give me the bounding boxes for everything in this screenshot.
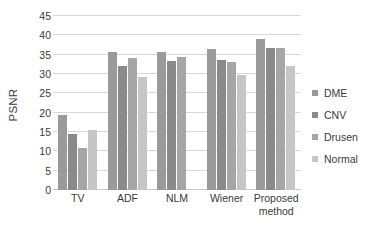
legend: DMECNVDrusenNormal (312, 84, 376, 172)
y-axis-tick-label: 25 (39, 87, 51, 99)
bar (128, 58, 137, 190)
legend-swatch-icon (312, 90, 318, 96)
y-axis-title: PSNR (0, 70, 26, 140)
bar (78, 148, 87, 190)
bar (157, 52, 166, 190)
y-axis-tick-label: 10 (39, 145, 51, 157)
bar (276, 48, 285, 190)
bar (227, 62, 236, 190)
bar (88, 130, 97, 190)
y-axis-tick-label: 45 (39, 10, 51, 22)
bar-group (207, 16, 246, 190)
legend-label: Drusen (324, 131, 358, 143)
y-axis-tick-label: 5 (45, 165, 51, 177)
bar (177, 57, 186, 190)
legend-item[interactable]: DME (312, 84, 376, 102)
bar (138, 77, 147, 190)
legend-item[interactable]: Drusen (312, 128, 376, 146)
x-axis-tick-label-line: method (243, 205, 309, 218)
bar (118, 66, 127, 191)
legend-label: Normal (324, 153, 358, 165)
y-axis-tick-label: 30 (39, 68, 51, 80)
x-axis-tick-labels: TVADFNLMWienerProposedmethod (53, 192, 301, 236)
legend-label: CNV (324, 109, 346, 121)
y-axis-tick-label: 15 (39, 126, 51, 138)
y-axis-tick-label: 40 (39, 29, 51, 41)
bar-group (108, 16, 147, 190)
legend-swatch-icon (312, 112, 318, 118)
legend-swatch-icon (312, 156, 318, 162)
psnr-bar-chart: PSNR 051015202530354045 TVADFNLMWienerPr… (0, 0, 378, 239)
legend-label: DME (324, 87, 347, 99)
bar (237, 75, 246, 190)
bar (286, 66, 295, 191)
legend-item[interactable]: CNV (312, 106, 376, 124)
bar (256, 39, 265, 190)
y-axis-tick-labels: 051015202530354045 (25, 16, 51, 190)
x-axis-tick-label-line: Proposed (243, 192, 309, 205)
y-axis-tick-label: 20 (39, 107, 51, 119)
bar (217, 60, 226, 190)
plot-area (53, 16, 301, 190)
bar-group (157, 16, 186, 190)
bar (68, 134, 77, 190)
x-axis-tick-label: Proposedmethod (243, 192, 309, 218)
bar (167, 61, 176, 190)
bar (266, 48, 275, 190)
bar-group (58, 16, 97, 190)
y-axis-title-label: PSNR (7, 89, 19, 122)
legend-swatch-icon (312, 134, 318, 140)
bars-layer (53, 16, 301, 190)
legend-item[interactable]: Normal (312, 150, 376, 168)
bar (207, 49, 216, 190)
bar (58, 115, 67, 190)
bar-group (256, 16, 295, 190)
y-axis-tick-label: 35 (39, 49, 51, 61)
bar (108, 52, 117, 190)
